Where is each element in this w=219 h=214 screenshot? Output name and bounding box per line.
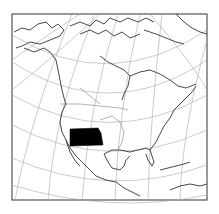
north-america-map bbox=[0, 0, 219, 214]
highlighted-state-kansas bbox=[70, 128, 103, 146]
map-container bbox=[0, 0, 219, 214]
